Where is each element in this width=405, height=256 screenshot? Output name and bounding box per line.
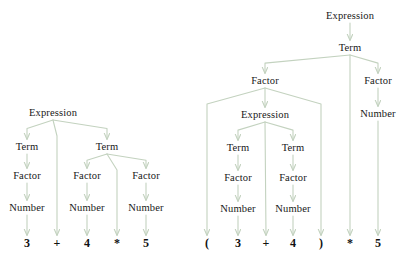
tree-node-factor: Factor [13, 171, 41, 182]
tree-edge [238, 122, 265, 140]
tree-terminal: 4 [84, 237, 90, 249]
parse-tree-figure: ExpressionTermTermFactorFactorFactorNumb… [0, 0, 405, 256]
tree-terminal: 3 [235, 237, 241, 249]
tree-node-factor: Factor [224, 173, 252, 184]
tree-edge [87, 154, 107, 168]
tree-node-term: Term [96, 142, 119, 153]
tree-terminal: * [114, 237, 120, 249]
tree-edges-layer [0, 0, 405, 256]
tree-terminal: 4 [290, 237, 296, 249]
tree-terminal: 5 [143, 237, 149, 249]
tree-node-number: Number [128, 203, 163, 214]
tree-node-expression: Expression [29, 108, 77, 119]
tree-edge [53, 120, 107, 139]
tree-node-expression: Expression [326, 11, 374, 22]
tree-node-expression: Expression [241, 110, 289, 121]
tree-node-term: Term [227, 143, 250, 154]
tree-node-factor: Factor [364, 76, 392, 87]
tree-node-number: Number [220, 204, 255, 215]
tree-terminal: 5 [375, 237, 381, 249]
tree-edge [107, 154, 117, 235]
tree-terminal: ( [205, 237, 209, 249]
tree-terminal: ) [319, 237, 323, 249]
tree-edge [265, 55, 350, 73]
tree-node-term: Term [339, 43, 362, 54]
tree-edge [350, 55, 378, 73]
tree-node-number: Number [69, 203, 104, 214]
tree-node-term: Term [282, 143, 305, 154]
tree-terminal: 3 [24, 237, 30, 249]
tree-node-number: Number [360, 109, 395, 120]
tree-edge [265, 122, 293, 140]
tree-node-factor: Factor [132, 171, 160, 182]
tree-edge [27, 120, 53, 139]
tree-node-factor: Factor [73, 171, 101, 182]
tree-edge [53, 120, 57, 235]
tree-edge [107, 154, 146, 168]
tree-node-number: Number [275, 204, 310, 215]
tree-node-term: Term [16, 142, 39, 153]
tree-terminal: * [347, 237, 353, 249]
tree-terminal: + [54, 237, 61, 249]
tree-node-factor: Factor [251, 76, 279, 87]
tree-terminal: + [263, 237, 270, 249]
tree-node-factor: Factor [279, 173, 307, 184]
tree-edge [265, 122, 266, 235]
tree-node-number: Number [9, 203, 44, 214]
